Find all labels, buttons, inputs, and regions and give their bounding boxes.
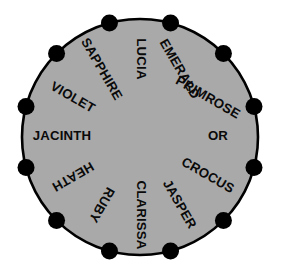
vertex-dot	[215, 45, 232, 62]
vertex-dot	[101, 15, 118, 32]
vertex-dot	[101, 242, 118, 259]
vertex-dot	[245, 159, 262, 176]
wheel-label-lucia: LUCIA	[134, 38, 149, 80]
wheel-label-or: OR	[208, 128, 228, 143]
wheel-label-clarissa: CLARISSA	[134, 180, 149, 249]
vertex-dot	[215, 212, 232, 229]
vertex-dot	[162, 15, 179, 32]
vertex-dot	[18, 98, 35, 115]
vertex-dot	[18, 159, 35, 176]
vertex-dot	[48, 45, 65, 62]
vertex-dot	[245, 98, 262, 115]
wheel-diagram: LUCIAEMERALDPRIMROSEORCROCUSJASPERCLARIS…	[0, 0, 282, 270]
wheel-label-jacinth: JACINTH	[33, 128, 92, 143]
vertex-dot	[162, 242, 179, 259]
figure-root: LUCIAEMERALDPRIMROSEORCROCUSJASPERCLARIS…	[0, 0, 282, 270]
vertex-dot	[48, 212, 65, 229]
